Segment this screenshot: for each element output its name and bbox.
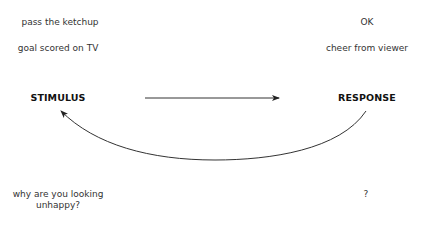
response-example-3: ? [364,189,369,200]
stimulus-example-3: why are you looking unhappy? [3,189,113,211]
feedback-curve-arrow-icon [61,111,366,160]
